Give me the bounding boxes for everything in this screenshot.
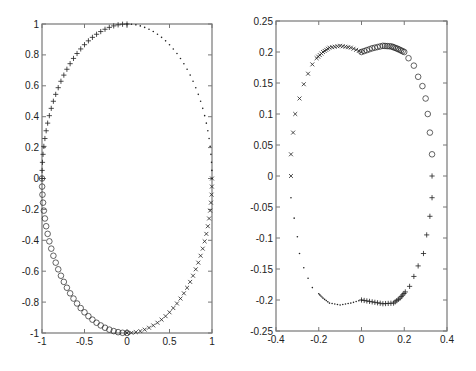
circle-marker	[425, 111, 431, 117]
plus-marker	[47, 113, 52, 118]
plus-marker	[372, 300, 377, 305]
plus-marker	[56, 85, 61, 90]
circle-marker	[64, 285, 70, 291]
cross-marker	[171, 306, 175, 310]
dot-marker	[347, 303, 349, 305]
dot-marker	[192, 80, 194, 82]
dot-marker	[337, 304, 339, 306]
dot-marker	[202, 108, 204, 110]
x-tick-label: -0.5	[76, 336, 94, 347]
dot-marker	[342, 304, 344, 306]
circle-marker	[423, 96, 429, 102]
cross-marker	[293, 112, 297, 116]
x-tick-label: 0.5	[163, 336, 177, 347]
cross-marker	[179, 297, 183, 301]
plus-marker	[364, 298, 369, 303]
circle-marker	[61, 279, 67, 285]
series-upper-left-arc	[289, 44, 363, 178]
cross-marker	[185, 286, 189, 290]
dot-marker	[297, 236, 299, 238]
y-tick-label: 0.4	[25, 111, 39, 122]
dot-marker	[358, 300, 360, 302]
plus-marker	[86, 38, 91, 43]
y-tick-label: -0.15	[250, 264, 273, 275]
series-quadrant-upper-right	[126, 23, 213, 179]
dot-marker	[355, 301, 357, 303]
dot-marker	[161, 37, 163, 39]
dot-marker	[209, 146, 211, 148]
x-tick-label: -1	[38, 336, 47, 347]
x-tick-label: -0.2	[310, 334, 328, 345]
dot-marker	[204, 115, 206, 117]
dot-marker	[169, 44, 171, 46]
plus-marker	[429, 173, 434, 178]
plus-marker	[416, 263, 421, 268]
plus-marker	[74, 51, 79, 56]
dot-marker	[157, 33, 159, 35]
circle-marker	[406, 55, 412, 61]
cross-marker	[199, 254, 203, 258]
circle-marker	[411, 63, 417, 69]
dot-marker	[180, 58, 182, 60]
dot-marker	[329, 302, 331, 304]
plus-marker	[98, 29, 103, 34]
plus-marker	[421, 251, 426, 256]
cross-marker	[196, 261, 200, 265]
figure: -1-0.8-0.6-0.4-0.200.20.40.60.81-1-0.500…	[0, 0, 476, 371]
y-tick-label: 0.6	[25, 80, 39, 91]
plus-marker	[429, 195, 434, 200]
dot-marker	[325, 300, 327, 302]
dot-marker	[312, 287, 314, 289]
plus-marker	[40, 168, 45, 173]
dot-marker	[290, 197, 292, 199]
y-tick-label: 0.05	[254, 140, 274, 151]
plus-marker	[90, 35, 95, 40]
circle-marker	[47, 239, 53, 245]
y-tick-label: -0.1	[256, 233, 274, 244]
x-tick-label: 0.4	[440, 334, 454, 345]
plus-marker	[424, 232, 429, 237]
plus-marker	[45, 121, 50, 126]
series-quadrant-upper-left	[39, 21, 129, 181]
y-tick-label: -0.8	[22, 297, 40, 308]
plus-marker	[53, 92, 58, 97]
plus-marker	[411, 274, 416, 279]
y-tick-label: -0.4	[22, 235, 40, 246]
circle-marker	[429, 152, 435, 158]
y-tick-label: 1	[33, 19, 39, 30]
dot-marker	[208, 138, 210, 140]
cross-marker	[182, 291, 186, 295]
dot-marker	[361, 299, 363, 301]
y-tick-label: -0.05	[250, 202, 273, 213]
plus-marker	[116, 22, 121, 27]
circle-marker	[51, 253, 57, 259]
plus-marker	[58, 79, 63, 84]
plus-marker	[78, 46, 83, 51]
y-tick-label: 0.25	[254, 16, 274, 27]
plus-marker	[49, 106, 54, 111]
plus-marker	[407, 284, 412, 289]
cross-marker	[164, 314, 168, 318]
dot-marker	[327, 301, 329, 303]
plus-marker	[124, 21, 129, 26]
cross-marker	[147, 326, 151, 330]
circle-marker	[45, 231, 51, 237]
dot-marker	[176, 53, 178, 55]
x-tick-label: 0	[359, 334, 365, 345]
cross-marker	[160, 318, 164, 322]
circle-marker	[55, 267, 61, 273]
circle-marker	[94, 320, 100, 326]
dot-marker	[303, 267, 305, 269]
cross-marker	[175, 302, 179, 306]
plus-marker	[40, 160, 45, 165]
series-lower-right-arc	[359, 173, 435, 306]
circle-marker	[415, 74, 421, 80]
dot-marker	[200, 100, 202, 102]
cross-marker	[291, 131, 295, 135]
dot-marker	[135, 24, 137, 26]
dot-marker	[152, 31, 154, 33]
plus-marker	[94, 32, 99, 37]
dot-marker	[206, 122, 208, 124]
dot-marker	[211, 170, 213, 172]
circle-marker	[40, 200, 46, 206]
